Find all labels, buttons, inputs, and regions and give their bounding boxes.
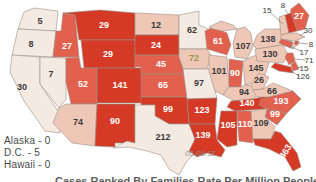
callout-md-value: 126 — [296, 72, 310, 81]
map-caption: Cases Ranked By Families Rate Per Millio… — [55, 175, 315, 182]
state-mt-value: 29 — [99, 20, 109, 30]
state-sd-value: 24 — [151, 40, 161, 50]
state-ky-value: 94 — [239, 87, 249, 97]
callout-vt-value: 15 — [263, 6, 272, 15]
callout-nh-value: 8 — [281, 1, 286, 10]
state-nm-value: 90 — [110, 116, 120, 126]
state-wy-value: 29 — [103, 49, 113, 59]
state-ok-value: 99 — [163, 104, 173, 114]
note-alaska: Alaska - 0 — [4, 135, 50, 147]
state-ut-value: 52 — [78, 79, 88, 89]
state-mi-value: 107 — [235, 41, 250, 51]
date-label: 05.09.11 — [185, 149, 216, 158]
state-wi-value: 61 — [213, 36, 223, 46]
state-tn-value: 140 — [239, 98, 254, 108]
state-ne-value: 45 — [156, 59, 166, 69]
callout-ri-value: 8 — [309, 40, 314, 49]
note-hawaii: Hawaii - 0 — [4, 159, 50, 171]
state-va-value: 66 — [267, 86, 277, 96]
non-contiguous-notes: Alaska - 0 D.C. - 5 Hawaii - 0 — [4, 135, 50, 171]
state-me-value: 27 — [294, 11, 304, 21]
state-in-value: 90 — [230, 68, 240, 78]
state-ri — [294, 41, 299, 45]
state-az-value: 74 — [73, 117, 83, 127]
state-ar-value: 123 — [194, 105, 209, 115]
state-la-value: 139 — [195, 130, 210, 140]
state-nc-value: 193 — [273, 96, 288, 106]
state-tx-value: 212 — [155, 132, 170, 142]
state-or-value: 8 — [28, 39, 33, 49]
state-al-value: 110 — [238, 119, 253, 129]
state-nd-value: 12 — [151, 20, 161, 30]
state-il-value: 101 — [211, 66, 226, 76]
callout-line-nj — [295, 59, 305, 60]
callout-line-ri — [299, 43, 308, 44]
state-id-value: 27 — [62, 41, 72, 51]
state-co-value: 141 — [112, 80, 127, 90]
state-ca-value: 30 — [17, 82, 27, 92]
state-wa-value: 5 — [37, 16, 42, 26]
state-pa-value: 130 — [262, 49, 277, 59]
state-mo-value: 97 — [194, 78, 204, 88]
note-dc: D.C. - 5 — [4, 147, 50, 159]
state-ny-value: 138 — [260, 34, 275, 44]
state-or — [12, 29, 56, 57]
state-oh-value: 145 — [248, 63, 263, 73]
state-mn-value: 62 — [187, 25, 197, 35]
state-ga-value: 109 — [253, 118, 268, 128]
state-sc-value: 99 — [270, 109, 280, 119]
state-ms-value: 105 — [220, 120, 235, 130]
infographic-us-map: 5830727292952141749012244565992126272971… — [0, 0, 316, 182]
state-ks-value: 65 — [158, 80, 168, 90]
state-ia-value: 72 — [189, 53, 199, 63]
state-nv-value: 7 — [48, 69, 53, 79]
state-wv-value: 26 — [254, 75, 264, 85]
callout-ma-value: 30 — [304, 26, 313, 35]
